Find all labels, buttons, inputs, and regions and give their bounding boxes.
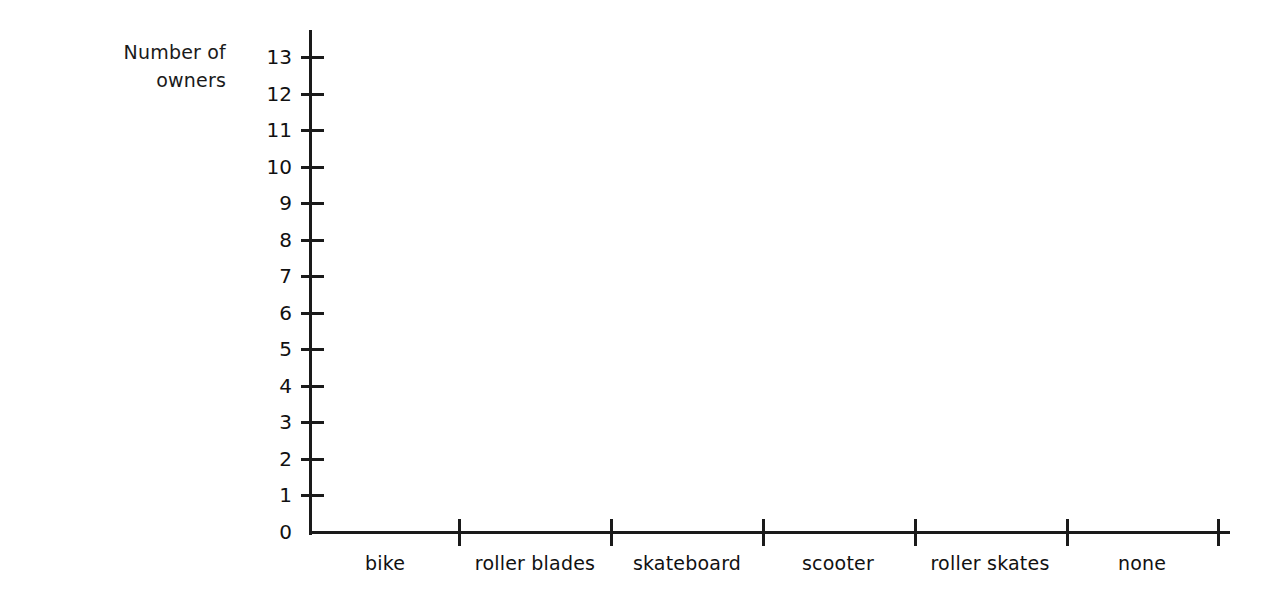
y-tick-label-12: 12: [248, 84, 292, 104]
y-tick-label-7: 7: [248, 266, 292, 286]
y-axis-title-line-1: Number of: [40, 38, 226, 66]
x-category-label-scooter: scooter: [802, 552, 874, 574]
x-category-label-roller-blades: roller blades: [475, 552, 595, 574]
y-tick-12: [301, 93, 324, 96]
x-category-label-roller-skates: roller skates: [931, 552, 1050, 574]
y-tick-10: [301, 166, 324, 169]
y-tick-label-0: 0: [248, 522, 292, 542]
y-tick-9: [301, 202, 324, 205]
y-tick-8: [301, 239, 324, 242]
y-axis-title-line-2: owners: [40, 66, 226, 94]
x-axis-line: [309, 531, 1230, 534]
y-tick-label-6: 6: [248, 303, 292, 323]
y-tick-13: [301, 56, 324, 59]
x-tick-6: [1217, 519, 1220, 546]
x-category-label-none: none: [1118, 552, 1166, 574]
y-tick-2: [301, 458, 324, 461]
x-category-label-skateboard: skateboard: [633, 552, 741, 574]
bar-chart-blank-template: Number of owners 13 12 11 10 9 8 7 6 5 4…: [0, 0, 1286, 593]
x-tick-3: [762, 519, 765, 546]
y-tick-label-2: 2: [248, 449, 292, 469]
y-tick-label-9: 9: [248, 193, 292, 213]
y-tick-6: [301, 312, 324, 315]
y-tick-label-8: 8: [248, 230, 292, 250]
x-tick-5: [1066, 519, 1069, 546]
y-tick-label-1: 1: [248, 485, 292, 505]
y-tick-label-11: 11: [248, 120, 292, 140]
y-tick-label-5: 5: [248, 339, 292, 359]
y-tick-label-13: 13: [248, 47, 292, 67]
y-tick-label-4: 4: [248, 376, 292, 396]
x-tick-1: [458, 519, 461, 546]
x-category-label-bike: bike: [365, 552, 405, 574]
x-tick-4: [914, 519, 917, 546]
y-tick-1: [301, 494, 324, 497]
plot-area: [312, 30, 1230, 531]
x-tick-2: [610, 519, 613, 546]
y-tick-3: [301, 421, 324, 424]
y-tick-label-3: 3: [248, 412, 292, 432]
y-tick-label-10: 10: [248, 157, 292, 177]
y-tick-5: [301, 348, 324, 351]
y-tick-7: [301, 275, 324, 278]
y-tick-11: [301, 129, 324, 132]
y-axis-title: Number of owners: [40, 38, 226, 94]
y-tick-4: [301, 385, 324, 388]
